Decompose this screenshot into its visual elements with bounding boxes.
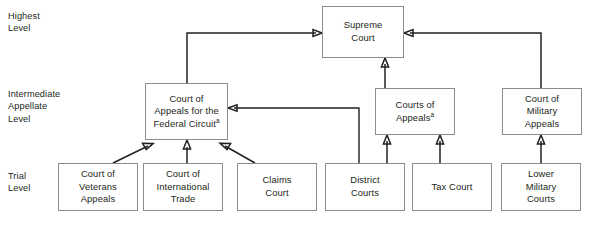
level-label-highest: Highest Level xyxy=(8,10,40,35)
node-court-of-military-appeals[interactable]: Court of Military Appeals xyxy=(502,88,582,135)
arrowhead-district-courts-to-federal-circuit xyxy=(228,105,237,111)
court-hierarchy-diagram: Highest Level Intermediate Appellate Lev… xyxy=(0,0,592,226)
node-federal-circuit-line-3: Federal Circuita xyxy=(153,118,219,131)
node-lower-military-line-2: Military xyxy=(526,181,557,194)
node-international-trade-line-1: Court of xyxy=(157,168,210,181)
arrowhead-claims-court-to-federal-circuit xyxy=(220,143,231,149)
node-federal-circuit-line-2: Appeals for the xyxy=(153,105,219,118)
node-international-trade-line-3: Trade xyxy=(157,193,210,206)
node-federal-circuit-line-1: Court of xyxy=(153,93,219,106)
node-international-trade-line-2: International xyxy=(157,181,210,194)
edge-claims-court-to-federal-circuit xyxy=(225,146,255,163)
arrowhead-lower-military-to-military-appeals xyxy=(537,135,544,144)
node-court-of-international-trade[interactable]: Court of International Trade xyxy=(143,163,223,211)
level-label-trial: Trial Level xyxy=(8,170,30,195)
node-court-of-veterans-appeals[interactable]: Court of Veterans Appeals xyxy=(58,163,138,211)
node-supreme-court-line-1: Supreme xyxy=(344,19,383,32)
node-lower-military-line-3: Courts xyxy=(526,193,557,206)
arrowhead-international-trade-to-federal-circuit xyxy=(183,140,190,149)
node-district-courts-line-1: District xyxy=(350,174,379,187)
node-claims-court[interactable]: Claims Court xyxy=(237,163,317,211)
node-lower-military-courts[interactable]: Lower Military Courts xyxy=(501,163,581,211)
footnote-marker-a: a xyxy=(216,117,220,124)
node-military-appeals-line-3: Appeals xyxy=(525,118,560,131)
node-military-appeals-line-1: Court of xyxy=(525,93,560,106)
node-military-appeals-line-2: Military xyxy=(525,105,560,118)
edge-military-appeals-to-supreme-court xyxy=(410,33,541,88)
footnote-marker-a2: a xyxy=(430,110,434,117)
node-federal-circuit[interactable]: Court of Appeals for the Federal Circuit… xyxy=(145,83,228,140)
edge-federal-circuit-to-supreme-court xyxy=(187,33,316,83)
edge-veterans-appeals-to-federal-circuit xyxy=(113,146,148,163)
node-courts-of-appeals-line-1: Courts of xyxy=(396,99,435,112)
node-supreme-court-line-2: Court xyxy=(344,32,383,45)
arrowhead-veterans-appeals-to-federal-circuit xyxy=(143,143,153,149)
node-supreme-court[interactable]: Supreme Court xyxy=(322,6,404,58)
arrowhead-courts-of-appeals-to-supreme-court xyxy=(381,58,388,67)
edge-district-courts-to-federal-circuit xyxy=(234,108,359,163)
arrowhead-federal-circuit-to-supreme-court xyxy=(313,30,322,37)
arrowhead-military-appeals-to-supreme-court xyxy=(404,30,413,37)
node-district-courts[interactable]: District Courts xyxy=(325,163,405,211)
node-claims-court-line-2: Court xyxy=(262,187,291,200)
node-tax-court[interactable]: Tax Court xyxy=(412,163,492,211)
arrowhead-tax-court-to-courts-of-appeals xyxy=(436,135,443,144)
node-claims-court-line-1: Claims xyxy=(262,174,291,187)
node-courts-of-appeals-line-2: Appealsa xyxy=(396,112,435,125)
arrowhead-district-courts-to-courts-of-appeals xyxy=(383,135,390,144)
node-tax-court-line-1: Tax Court xyxy=(431,181,472,194)
node-veterans-appeals-line-3: Appeals xyxy=(79,193,117,206)
node-lower-military-line-1: Lower xyxy=(526,168,557,181)
node-courts-of-appeals[interactable]: Courts of Appealsa xyxy=(375,88,455,135)
node-veterans-appeals-line-1: Court of xyxy=(79,168,117,181)
node-district-courts-line-2: Courts xyxy=(350,187,379,200)
level-label-intermediate: Intermediate Appellate Level xyxy=(8,88,60,125)
node-veterans-appeals-line-2: Veterans xyxy=(79,181,117,194)
